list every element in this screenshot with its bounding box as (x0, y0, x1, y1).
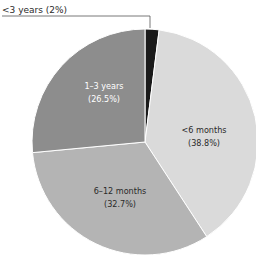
slice-label-1-3-years: 1–3 years (84, 81, 123, 91)
callout-label-lt3years: <3 years (2%) (2, 5, 67, 15)
pie-slices (32, 29, 256, 255)
callout-leader-line (2, 16, 150, 28)
slice-label-lt6-months: <6 months (181, 125, 226, 135)
slice-pct-1-3-years: (26.5%) (88, 94, 120, 104)
slice-pct-6-12-months: (32.7%) (104, 199, 136, 209)
pie-chart: <3 years (2%) 1–3 years (26.5%) <6 month… (0, 0, 256, 272)
slice-label-6-12-months: 6–12 months (94, 186, 147, 196)
slice-pct-lt6-months: (38.8%) (188, 138, 220, 148)
